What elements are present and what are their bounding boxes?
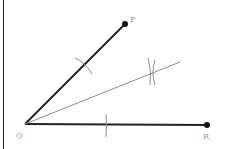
label-q: Q	[16, 131, 23, 140]
label-p: P	[130, 15, 136, 24]
point-r	[204, 122, 210, 128]
ray-qp	[25, 24, 125, 124]
angle-bisector-diagram: P Q R	[0, 0, 226, 149]
label-r: R	[203, 132, 210, 141]
point-p	[122, 21, 128, 27]
arc-mark-qr	[106, 114, 107, 137]
ray-qr	[25, 124, 207, 125]
arc-intersect-1	[148, 58, 151, 85]
bisector-line	[25, 62, 180, 124]
